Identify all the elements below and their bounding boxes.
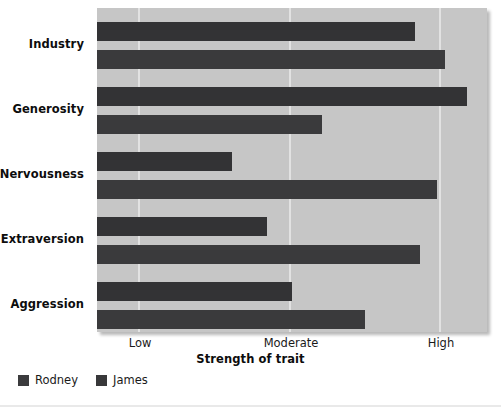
bar-industry-james — [97, 50, 445, 69]
bar-generosity-james — [97, 115, 322, 134]
bar-generosity-rodney — [97, 87, 467, 106]
bar-aggression-james — [97, 310, 365, 329]
bar-extraversion-rodney — [97, 217, 267, 236]
legend-item-rodney: Rodney — [18, 373, 78, 387]
x-tick-high: High — [428, 336, 454, 350]
bar-nervousness-rodney — [97, 152, 232, 171]
chart-figure: Industry Generosity Nervousness Extraver… — [0, 0, 501, 407]
y-axis-labels: Industry Generosity Nervousness Extraver… — [0, 8, 92, 332]
x-axis-title: Strength of trait — [0, 352, 501, 366]
y-label-aggression: Aggression — [10, 297, 84, 311]
y-label-extraversion: Extraversion — [1, 232, 84, 246]
y-label-industry: Industry — [29, 37, 84, 51]
legend-label-james: James — [113, 373, 148, 387]
bar-industry-rodney — [97, 22, 415, 41]
chart-legend: Rodney James — [18, 373, 148, 387]
bar-aggression-rodney — [97, 282, 292, 301]
x-tick-moderate: Moderate — [264, 336, 319, 350]
legend-swatch-icon-rodney — [18, 375, 29, 386]
legend-item-james: James — [96, 373, 148, 387]
y-label-generosity: Generosity — [12, 102, 84, 116]
bar-extraversion-james — [97, 245, 420, 264]
plot-area — [97, 8, 487, 332]
bar-nervousness-james — [97, 180, 437, 199]
x-tick-low: Low — [129, 336, 152, 350]
y-label-nervousness: Nervousness — [0, 167, 84, 181]
legend-swatch-icon-james — [96, 375, 107, 386]
legend-label-rodney: Rodney — [35, 373, 78, 387]
